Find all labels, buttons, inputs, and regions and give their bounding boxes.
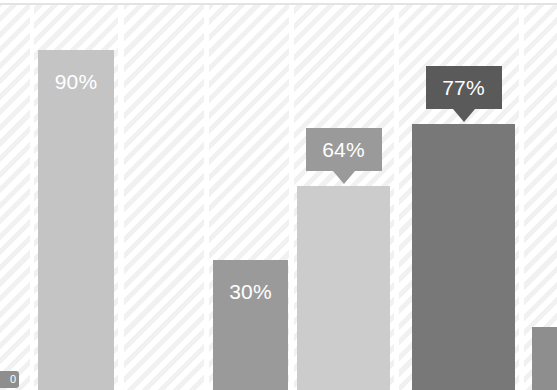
hatch-band-0 (0, 5, 30, 390)
bar-30-value-label: 30% (213, 281, 288, 302)
bar-77-callout[interactable]: 77% (426, 66, 502, 109)
bar-90-value-label: 90% (38, 71, 114, 92)
bar-partial-right[interactable] (532, 327, 557, 390)
bar-77-callout-label: 77% (442, 77, 485, 98)
bar-77-callout-tail-icon (453, 109, 475, 122)
bar-90[interactable]: 90% (38, 50, 114, 390)
bar-64-callout-label: 64% (322, 139, 365, 160)
bar-77[interactable] (412, 124, 515, 390)
bar-64-callout-tail-icon (333, 171, 355, 184)
hatch-band-2 (124, 5, 204, 390)
bar-64-callout[interactable]: 64% (306, 128, 382, 171)
chart-viewport: 90%30%64%77% 0 (0, 0, 557, 390)
axis-origin-badge: 0 (0, 371, 19, 388)
bar-30[interactable]: 30% (213, 260, 288, 390)
bar-64[interactable] (297, 186, 390, 390)
